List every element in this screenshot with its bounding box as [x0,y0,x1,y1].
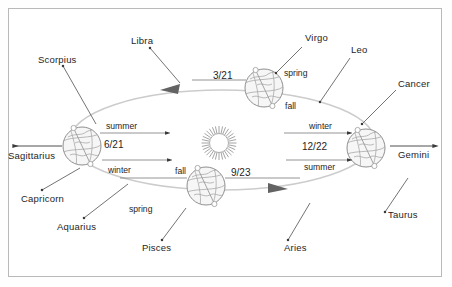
zodiac-label-virgo: Virgo [305,33,328,43]
zodiac-label-libra: Libra [131,36,153,46]
diagram-frame [8,8,442,277]
date-label-march: 3/21 [213,71,232,81]
zodiac-label-pisces: Pisces [142,243,171,253]
date-label-september: 9/23 [231,168,250,178]
zodiac-label-aquarius: Aquarius [57,222,96,232]
diagram-canvas: Scorpius Libra Virgo Leo Cancer Gemini T… [0,0,452,287]
zodiac-label-sagittarius: Sagittarius [8,151,55,161]
season-june-bottom: winter [108,166,131,175]
season-september-bottom: spring [129,205,152,214]
zodiac-label-gemini: Gemini [398,150,429,160]
season-march-bottom: fall [285,102,296,111]
zodiac-label-cancer: Cancer [398,79,430,89]
zodiac-label-leo: Leo [351,45,367,55]
season-december-top: winter [309,122,332,131]
zodiac-label-taurus: Taurus [388,210,418,220]
zodiac-label-capricorn: Capricorn [21,194,64,204]
zodiac-label-aries: Aries [284,243,307,253]
date-label-december: 12/22 [302,142,327,152]
season-december-bottom: summer [304,163,335,172]
date-label-june: 6/21 [104,140,123,150]
season-march-top: spring [284,69,307,78]
season-september-top: fall [175,167,186,176]
season-june-top: summer [106,122,137,131]
zodiac-label-scorpius: Scorpius [38,55,77,65]
